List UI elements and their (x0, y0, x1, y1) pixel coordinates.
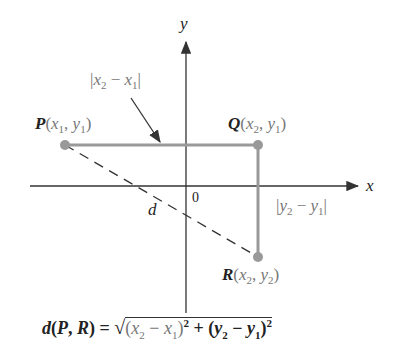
distance-formula: d(P, R) = √(x2 − x1)2 + (y2 − y1)2 (42, 316, 272, 341)
y-axis-label: y (180, 14, 188, 34)
point-q-label: Q(x2, y1) (228, 114, 286, 135)
diagram-canvas (0, 0, 401, 346)
x-axis-label: x (366, 176, 374, 196)
distance-label: d (148, 200, 157, 220)
pointer-arrow (131, 98, 160, 142)
horizontal-distance-label: |x2 − x1| (90, 70, 141, 91)
origin-label: 0 (192, 190, 199, 206)
point-p-label: P(x1, y1) (35, 114, 91, 135)
vertical-distance-label: |y2 − y1| (276, 196, 327, 217)
point-r-label: R(x2, y2) (222, 265, 279, 286)
point-r (253, 252, 263, 262)
distance-segment (65, 145, 258, 257)
point-p (60, 140, 70, 150)
point-q (253, 140, 263, 150)
